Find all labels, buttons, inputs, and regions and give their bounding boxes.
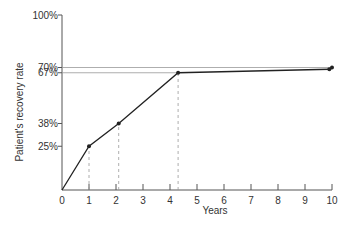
x-tick-label: 5 [194,195,200,206]
x-tick-label: 9 [302,195,308,206]
y-tick-label: 100% [32,10,58,21]
y-tick-label: 25% [38,141,58,152]
x-tick-label: 3 [140,195,146,206]
x-tick-label: 8 [275,195,281,206]
data-point [327,67,331,71]
axis-labels: YearsPatient's recovery rate [14,62,228,216]
reference-lines [62,66,334,191]
recovery-rate-chart: 012345678910100%70%67%38%25% YearsPatien… [0,0,354,230]
x-tick-label: 10 [326,195,338,206]
x-tick-label: 4 [167,195,173,206]
x-axis-label: Years [202,205,227,216]
data-point [87,144,91,148]
data-series [62,67,331,190]
axes: 012345678910100%70%67%38%25% [32,10,338,207]
recovery-line [62,69,329,190]
x-tick-label: 1 [86,195,92,206]
data-point [176,71,180,75]
data-point [117,122,121,126]
y-tick-label: 67% [38,67,58,78]
x-tick-label: 7 [248,195,254,206]
y-axis-label: Patient's recovery rate [14,62,25,162]
x-tick-label: 0 [59,195,65,206]
x-tick-label: 2 [113,195,119,206]
y-tick-label: 38% [38,118,58,129]
